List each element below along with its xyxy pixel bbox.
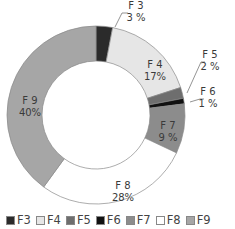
label-value-f8: 28% (112, 192, 134, 203)
legend-label: F9 (197, 213, 211, 227)
label-value-f4: 17% (144, 71, 166, 82)
legend-swatch-icon (126, 216, 135, 225)
legend-item-f7: F7 (126, 213, 151, 227)
legend-label: F4 (47, 213, 61, 227)
legend-item-f3: F3 (6, 213, 31, 227)
legend-swatch-icon (66, 216, 75, 225)
legend-label: F7 (137, 213, 151, 227)
legend-item-f4: F4 (36, 213, 61, 227)
label-name-f6: F 6 (200, 86, 215, 97)
donut-chart: F 33 %F 417%F 52 %F 61 %F 79 %F 828%F 94… (0, 0, 235, 229)
legend-label: F8 (167, 213, 181, 227)
label-value-f7: 9 % (158, 132, 177, 143)
label-value-f3: 3 % (126, 12, 145, 23)
label-name-f8: F 8 (115, 180, 130, 191)
legend-item-f8: F8 (156, 213, 181, 227)
segment-f4 (106, 28, 181, 99)
legend-label: F5 (77, 213, 91, 227)
label-name-f5: F 5 (202, 49, 217, 60)
label-value-f9: 40% (19, 107, 41, 118)
label-value-f6: 1 % (198, 98, 217, 109)
label-name-f3: F 3 (128, 0, 143, 11)
legend-item-f6: F6 (96, 213, 121, 227)
label-name-f4: F 4 (147, 59, 162, 70)
legend-item-f9: F9 (186, 213, 211, 227)
chart-legend: F3F4F5F6F7F8F9 (6, 213, 216, 227)
legend-swatch-icon (156, 216, 165, 225)
legend-swatch-icon (6, 216, 15, 225)
segment-f8 (44, 138, 177, 204)
legend-item-f5: F5 (66, 213, 91, 227)
legend-swatch-icon (96, 216, 105, 225)
legend-swatch-icon (186, 216, 195, 225)
legend-label: F6 (107, 213, 121, 227)
label-value-f5: 2 % (200, 61, 219, 72)
label-name-f7: F 7 (160, 120, 175, 131)
legend-label: F3 (17, 213, 31, 227)
legend-swatch-icon (36, 216, 45, 225)
label-name-f9: F 9 (22, 95, 37, 106)
